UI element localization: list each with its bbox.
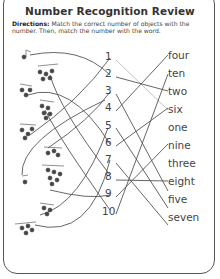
word-ten: ten <box>168 68 185 79</box>
number-1: 1 <box>105 51 112 62</box>
music-notes-icon <box>38 64 58 81</box>
number-3: 3 <box>105 85 112 96</box>
word-eight: eight <box>168 176 195 187</box>
music-notes-icon <box>15 222 36 235</box>
word-one: one <box>168 122 188 133</box>
word-five: five <box>168 194 187 205</box>
word-three: three <box>168 158 196 169</box>
music-notes-icon <box>22 50 31 59</box>
word-six: six <box>168 104 183 115</box>
word-nine: nine <box>168 140 191 151</box>
number-7: 7 <box>105 154 112 165</box>
number-6: 6 <box>105 137 112 148</box>
music-notes-icon <box>22 175 28 184</box>
number-2: 2 <box>105 68 112 79</box>
music-notes-icon <box>20 84 32 97</box>
word-four: four <box>168 50 189 61</box>
number-5: 5 <box>105 120 112 131</box>
music-notes-icon <box>42 165 64 186</box>
word-seven: seven <box>168 212 199 223</box>
music-notes-icon <box>40 100 54 120</box>
word-two: two <box>168 86 187 97</box>
number-10: 10 <box>102 206 115 217</box>
number-9: 9 <box>105 188 112 199</box>
number-4: 4 <box>105 102 112 113</box>
music-notes-icon <box>44 147 62 157</box>
number-8: 8 <box>105 171 112 182</box>
